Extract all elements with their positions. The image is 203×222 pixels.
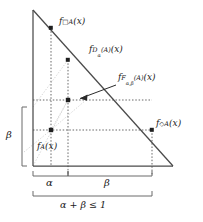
label-f-A: fA(x) (37, 142, 57, 151)
left-beta-bracket (22, 107, 27, 166)
label-f-diamond-A: f◇A(x) (156, 119, 181, 128)
label-bottom-beta: β (104, 178, 110, 188)
diagram-vector-layer (0, 0, 203, 222)
A-point-marker (49, 128, 53, 132)
D-alpha-A-point-marker (66, 58, 70, 62)
light-diagonal-mid (33, 100, 68, 166)
label-f-D-alpha-A: fDα(A)(x) (89, 45, 123, 58)
label-bottom-alpha: α (46, 178, 53, 188)
label-left-beta: β (6, 130, 12, 140)
bottom-total-bracket (33, 191, 152, 196)
F-alpha-beta-point-marker (66, 98, 70, 102)
bottom-alpha-bracket (33, 171, 68, 176)
label-f-F-alpha-beta-A: fFα,β(A)(x) (118, 73, 156, 86)
light-diagonal-right (51, 100, 86, 130)
diagram-canvas: f□A(x) fDα(A)(x) fFα,β(A)(x) f◇A(x) fA(x… (0, 0, 203, 222)
box-A-point-marker (49, 26, 53, 30)
diamond-A-point-marker (150, 128, 154, 132)
label-f-box-A: f□A(x) (59, 17, 85, 26)
label-bottom-total: α + β ≤ 1 (60, 200, 106, 210)
bottom-beta-bracket (68, 171, 152, 176)
callout-arrow (80, 85, 116, 101)
